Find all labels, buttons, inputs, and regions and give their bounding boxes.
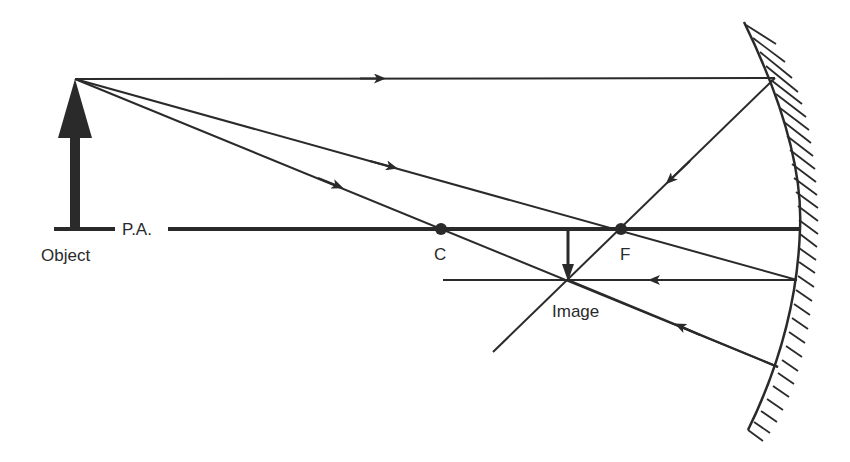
center-of-curvature-point xyxy=(435,223,447,235)
object-arrow-icon xyxy=(58,79,92,229)
mirror-surface xyxy=(744,22,800,430)
rays xyxy=(75,78,797,367)
arrowhead-icon xyxy=(370,161,392,167)
image-arrow-icon xyxy=(562,229,574,281)
center-ray-reflected xyxy=(568,280,778,367)
image-label: Image xyxy=(552,302,599,321)
focal-point xyxy=(615,223,627,235)
center-of-curvature-label: C xyxy=(434,245,446,264)
concave-mirror xyxy=(744,22,818,441)
arrowhead-icon xyxy=(680,326,700,335)
arrowhead-icon xyxy=(670,161,690,180)
object-label: Object xyxy=(41,246,90,265)
mirror-hatching xyxy=(746,25,818,441)
focal-point-label: F xyxy=(620,245,630,264)
ray-diagram: P.A. Object C F Image xyxy=(0,0,850,462)
arrowhead-icon xyxy=(318,178,338,186)
parallel-ray-reflected xyxy=(493,78,775,352)
principal-axis-label: P.A. xyxy=(122,220,152,239)
parallel-ray-incident xyxy=(75,78,775,79)
